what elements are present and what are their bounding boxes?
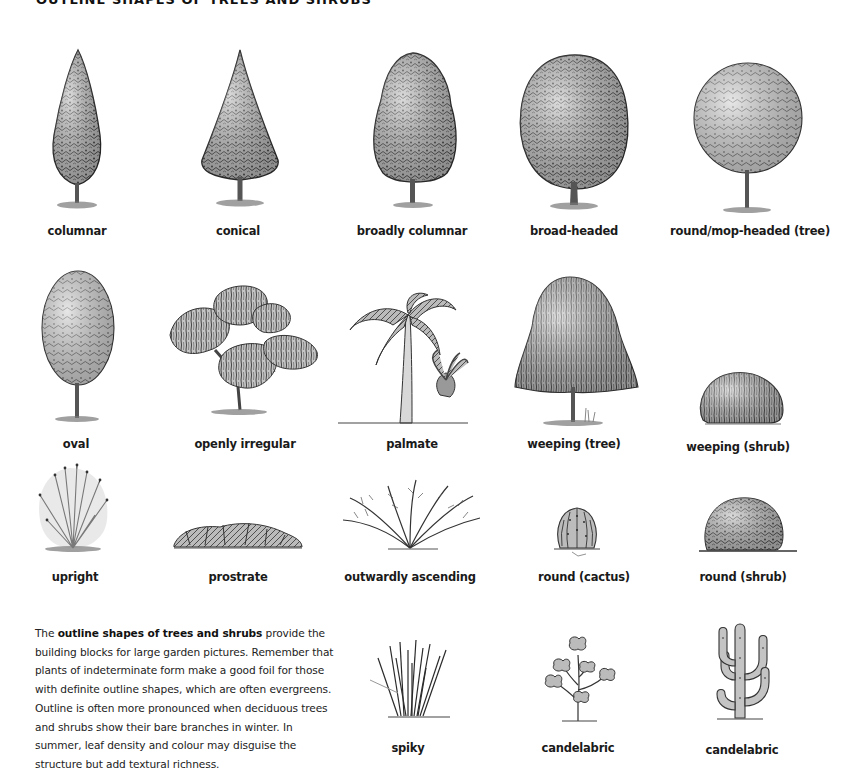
label-outwardly-ascending: outwardly ascending <box>344 570 476 584</box>
illustration-oval <box>38 268 118 428</box>
label-round-cactus: round (cactus) <box>538 570 630 584</box>
illustration-round-shrub <box>695 490 800 560</box>
illustration-candelabric-succulent <box>542 635 622 725</box>
illustration-prostrate <box>170 515 305 555</box>
illustration-round-mop-headed-tree <box>690 60 810 220</box>
label-spiky: spiky <box>391 741 424 755</box>
label-weeping-shrub: weeping (shrub) <box>686 440 789 454</box>
label-weeping-tree: weeping (tree) <box>527 437 620 451</box>
illustration-columnar <box>40 45 115 215</box>
label-columnar: columnar <box>48 224 107 238</box>
label-oval: oval <box>63 437 89 451</box>
illustration-palmate <box>338 285 468 425</box>
label-round-mop-headed-tree: round/mop-headed (tree) <box>670 224 830 238</box>
illustration-broadly-columnar <box>365 45 465 215</box>
label-upright: upright <box>52 570 99 584</box>
label-prostrate: prostrate <box>208 570 267 584</box>
paragraph-body: provide the building blocks for large ga… <box>35 627 333 770</box>
description-paragraph: The outline shapes of trees and shrubs p… <box>35 624 335 773</box>
label-broadly-columnar: broadly columnar <box>357 224 468 238</box>
illustration-upright <box>25 460 120 555</box>
page-title: OUTLINE SHAPES OF TREES AND SHRUBS <box>36 0 372 7</box>
illustration-weeping-shrub <box>693 365 788 430</box>
illustration-openly-irregular <box>165 280 325 425</box>
paragraph-lead: The <box>35 627 58 639</box>
label-openly-irregular: openly irregular <box>194 437 295 451</box>
label-broad-headed: broad-headed <box>530 224 618 238</box>
illustration-spiky <box>368 638 453 723</box>
illustration-broad-headed <box>515 50 635 215</box>
label-round-shrub: round (shrub) <box>699 570 786 584</box>
illustration-conical <box>190 45 290 215</box>
label-conical: conical <box>216 224 260 238</box>
illustration-round-cactus <box>552 500 602 560</box>
illustration-outwardly-ascending <box>338 478 483 553</box>
label-candelabric-2: candelabric <box>706 743 779 757</box>
illustration-candelabric-cactus <box>705 618 775 723</box>
label-candelabric-1: candelabric <box>542 741 615 755</box>
label-palmate: palmate <box>386 437 438 451</box>
illustration-weeping-tree <box>510 272 640 432</box>
paragraph-bold-phrase: outline shapes of trees and shrubs <box>58 627 263 639</box>
